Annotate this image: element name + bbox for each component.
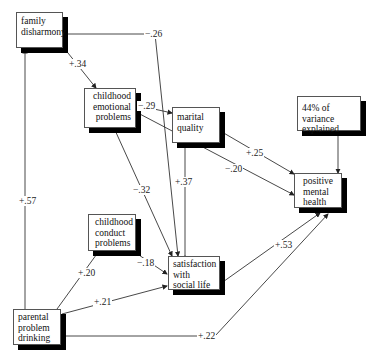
path-coef-con-sat: −.18 [136,258,155,268]
path-coef-par-fam: +.57 [18,196,37,206]
node-label: drinking [18,333,56,344]
path-coef-sat-pmh: +.53 [274,240,293,250]
node-label: problems [89,112,131,123]
path-coef-par-pmh: +.22 [197,331,216,341]
node-label: family [21,16,58,27]
node-label: childhood [89,91,131,102]
path-coef-par-sat: +.21 [93,297,112,307]
path-coef-fam-emo: +.34 [68,59,87,69]
node-label: marital [177,112,215,123]
node-label: emotional [89,102,131,113]
node-marital-quality: marital quality [172,107,220,143]
node-label: satisfaction [173,259,215,270]
node-variance-explained: 44% of variance explained [297,96,361,131]
node-label: childhood [95,217,131,228]
node-label: quality [177,123,215,134]
node-label: problems [95,238,131,249]
node-label: health [303,197,337,208]
node-satisfaction-with-social-life: satisfaction with social life [168,256,220,290]
node-childhood-emotional-problems: childhood emotional problems [84,88,136,128]
node-childhood-conduct-problems: childhood conduct problems [88,214,136,251]
path-coef-mar-pmh: +.25 [245,148,264,158]
node-family-disharmony: family disharmony [16,12,63,48]
node-label: with [173,270,215,281]
node-label: mental [303,187,337,198]
path-coef-fam-sat: −.26 [144,29,163,39]
node-parental-problem-drinking: parental problem drinking [13,309,61,345]
node-label: explained [302,124,356,135]
path-coef-emo-sat: −.32 [132,185,151,195]
path-coef-emo-mar: −.29 [137,101,156,111]
node-label: problem [18,323,56,334]
path-coef-emo-pmh: −.20 [224,164,243,174]
path-coef-sat-mar: +.37 [174,177,193,187]
node-label: 44% of variance [302,103,356,124]
path-coef-par-con: +.20 [77,268,96,278]
node-label: parental [18,312,56,323]
node-label: disharmony [21,27,58,38]
node-label: social life [173,280,215,291]
node-label: conduct [95,228,131,239]
node-positive-mental-health: positive mental health [294,173,342,208]
node-label: positive [303,176,337,187]
